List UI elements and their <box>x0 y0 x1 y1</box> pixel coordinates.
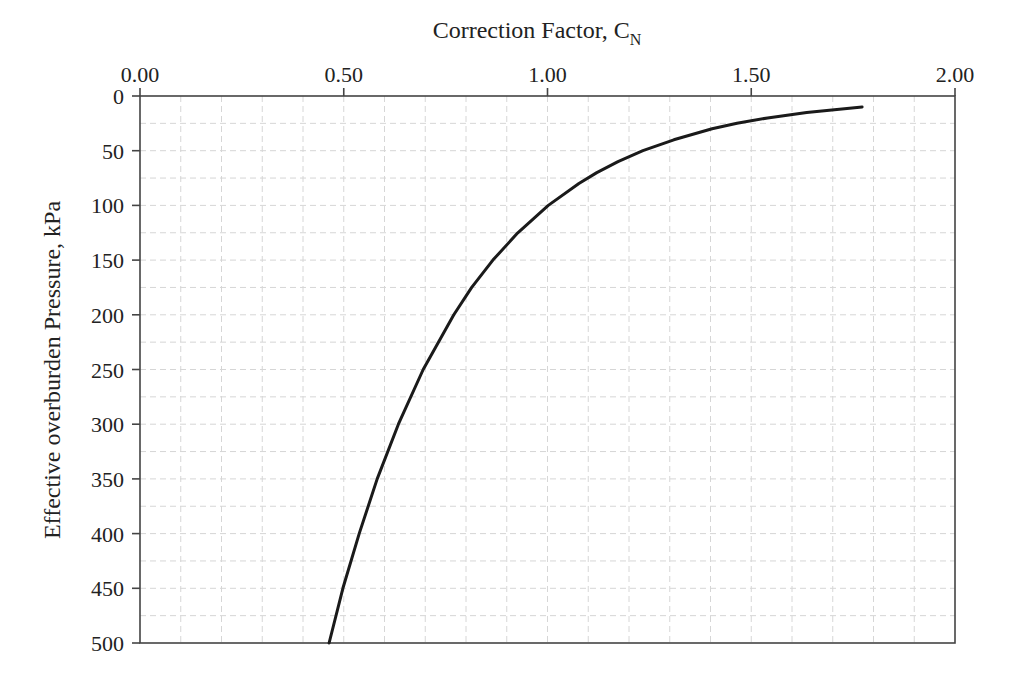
correction-factor-chart: 0.000.501.001.502.00 0501001502002503003… <box>0 0 1009 688</box>
x-axis-title: Correction Factor, CN <box>433 17 642 48</box>
y-tick-label: 150 <box>91 248 124 273</box>
minor-gridlines <box>140 96 955 643</box>
y-tick-label: 100 <box>91 193 124 218</box>
y-tick-label: 0 <box>113 84 124 109</box>
cn-curve-line <box>329 107 862 643</box>
x-tick-label: 0.00 <box>121 62 160 87</box>
x-tick-label: 2.00 <box>936 62 975 87</box>
y-tick-label: 50 <box>102 139 124 164</box>
y-axis-title: Effective overburden Pressure, kPa <box>39 201 65 539</box>
y-tick-label: 350 <box>91 467 124 492</box>
x-tick-label: 0.50 <box>325 62 364 87</box>
y-tick-label: 250 <box>91 358 124 383</box>
x-axis-ticks: 0.000.501.001.502.00 <box>121 62 975 96</box>
y-tick-label: 300 <box>91 412 124 437</box>
y-axis-ticks: 050100150200250300350400450500 <box>91 84 140 656</box>
y-tick-label: 450 <box>91 576 124 601</box>
x-tick-label: 1.50 <box>732 62 771 87</box>
x-tick-label: 1.00 <box>528 62 567 87</box>
y-tick-label: 500 <box>91 631 124 656</box>
y-tick-label: 200 <box>91 303 124 328</box>
y-tick-label: 400 <box>91 522 124 547</box>
